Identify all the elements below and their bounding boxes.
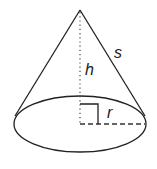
radius-label: r xyxy=(107,104,113,121)
height-label: h xyxy=(85,61,94,78)
slant-label: s xyxy=(114,44,122,61)
cone-diagram: s h r xyxy=(0,0,157,169)
right-angle-marker xyxy=(80,104,98,124)
